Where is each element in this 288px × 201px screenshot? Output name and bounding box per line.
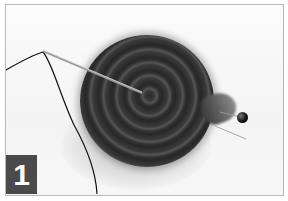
pin-head — [237, 112, 248, 123]
pin-shaft-lower — [215, 126, 246, 139]
step-number-badge: 1 — [6, 155, 37, 194]
needle — [43, 51, 142, 93]
needle-thread-pin-illustration — [0, 0, 288, 201]
